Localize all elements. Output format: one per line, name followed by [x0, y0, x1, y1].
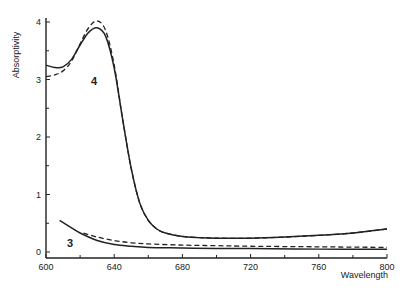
y-tick-label: 4 — [36, 17, 41, 27]
y-tick-label: 0 — [36, 247, 41, 257]
x-tick-label: 720 — [243, 262, 258, 272]
x-tick-label: 760 — [311, 262, 326, 272]
y-tick-label: 3 — [36, 75, 41, 85]
series-line — [46, 21, 387, 239]
series-line — [46, 28, 387, 239]
series-lines — [46, 21, 387, 249]
series-line — [84, 233, 387, 247]
absorptivity-chart: 01234600640680720760800 Wavelength Absor… — [0, 0, 406, 291]
x-tick-label: 680 — [175, 262, 190, 272]
y-tick-label: 2 — [36, 132, 41, 142]
y-axis-label: Absorptivity — [11, 31, 21, 78]
curve-4-label: 4 — [91, 75, 98, 87]
y-tick-label: 1 — [36, 190, 41, 200]
x-axis-label: Wavelength — [341, 270, 388, 280]
x-tick-label: 600 — [38, 262, 53, 272]
curve-3-label: 3 — [67, 237, 73, 249]
x-tick-label: 640 — [107, 262, 122, 272]
chart-svg: 01234600640680720760800 Wavelength Absor… — [0, 0, 406, 291]
